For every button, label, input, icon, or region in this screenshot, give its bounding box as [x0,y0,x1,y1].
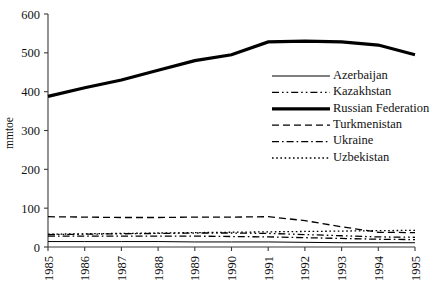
y-tick-label: 200 [21,163,40,177]
legend-label: Turkmenistan [333,117,403,131]
x-tick-label: 1988 [152,256,166,281]
line-chart: mmtoe 0100200300400500600 19851986198719… [0,0,436,294]
y-tick-label: 100 [21,202,40,216]
chart-legend: AzerbaijanKazakhstanRussian FederationTu… [272,68,430,164]
chart-container: mmtoe 0100200300400500600 19851986198719… [0,0,436,294]
x-tick-label: 1987 [115,256,129,281]
y-tick-label: 300 [21,124,40,138]
x-tick-label: 1992 [298,256,312,281]
legend-label: Kazakhstan [333,84,392,98]
x-tick-label: 1986 [78,256,92,281]
x-tick-label: 1993 [335,256,349,281]
x-tick-label: 1995 [409,256,423,281]
legend-label: Ukraine [333,133,374,147]
y-axis-ticks: 0100200300400500600 [21,8,48,255]
legend-label: Azerbaijan [333,68,389,82]
x-tick-label: 1991 [262,256,276,281]
x-tick-label: 1989 [188,256,202,281]
y-axis-title-group: mmtoe [3,117,15,149]
series-line-azerbaijan [48,242,415,243]
legend-label: Russian Federation [333,101,430,115]
legend-label: Uzbekistan [333,150,390,164]
y-tick-label: 500 [21,46,40,60]
y-tick-label: 400 [21,85,40,99]
x-tick-label: 1990 [225,256,239,281]
x-tick-label: 1985 [42,256,56,281]
x-tick-label: 1994 [372,255,386,281]
y-tick-label: 0 [34,241,40,255]
x-axis-ticks: 1985198619871988198919901991199219931994… [42,247,423,281]
y-tick-label: 600 [21,8,40,22]
y-axis-title: mmtoe [3,117,15,149]
